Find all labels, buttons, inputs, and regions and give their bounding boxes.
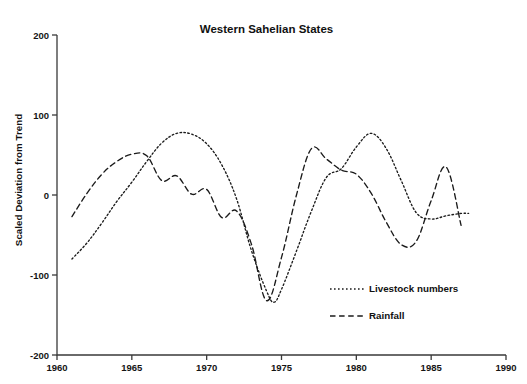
series-line-rainfall (72, 147, 461, 301)
y-tick-label: 100 (33, 110, 49, 121)
x-tick-label: 1965 (121, 362, 143, 373)
series-line-livestock (72, 132, 469, 302)
chart-title: Western Sahelian States (200, 23, 333, 35)
y-tick-label: -200 (30, 350, 49, 361)
chart-axes (57, 35, 506, 355)
y-tick-label: 0 (44, 190, 49, 201)
x-tick-label: 1985 (421, 362, 443, 373)
x-tick-label: 1975 (271, 362, 293, 373)
line-chart: Western Sahelian StatesScaled Deviation … (0, 0, 527, 384)
x-tick-label: 1960 (46, 362, 67, 373)
y-tick-label: -100 (30, 270, 49, 281)
x-tick-label: 1980 (346, 362, 367, 373)
y-axis-label: Scaled Deviation from Trend (13, 114, 24, 246)
x-tick-label: 1990 (495, 362, 516, 373)
x-tick-label: 1970 (196, 362, 217, 373)
y-tick-label: 200 (33, 30, 49, 41)
chart-figure: Western Sahelian StatesScaled Deviation … (0, 0, 527, 384)
legend-label-rainfall: Rainfall (369, 310, 405, 321)
legend-label-livestock: Livestock numbers (369, 283, 459, 294)
